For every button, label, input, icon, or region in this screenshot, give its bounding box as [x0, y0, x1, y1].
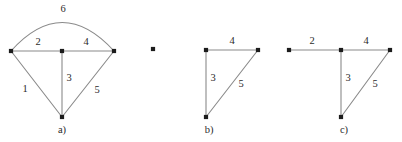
vertex-c-left: [287, 48, 291, 52]
edge-b-5-weight-label: 5: [238, 78, 243, 89]
edge-a-1: [11, 51, 62, 117]
graph-panel-c: 2345c): [287, 35, 392, 136]
vertex-b-topleft: [204, 48, 208, 52]
edge-a-2-weight-label: 2: [35, 36, 40, 47]
vertex-b-bottom: [204, 115, 208, 119]
vertex-c-middle: [339, 48, 343, 52]
edge-a-6-weight-label: 6: [60, 3, 65, 14]
panel-caption-c: c): [340, 124, 349, 136]
graph-panel-b: 345b): [151, 35, 260, 136]
vertex-a-bottom: [60, 115, 64, 119]
edge-c-3-weight-label: 3: [345, 72, 350, 83]
vertex-b-isolated: [151, 47, 155, 51]
vertex-a-right: [112, 49, 116, 53]
edge-a-3-weight-label: 3: [66, 72, 71, 83]
edge-c-4-weight-label: 4: [363, 35, 369, 46]
panel-caption-a: a): [58, 124, 67, 136]
graph-panel-a: 123456a): [9, 3, 116, 136]
edge-b-4-weight-label: 4: [229, 35, 235, 46]
vertex-a-left: [9, 49, 13, 53]
vertex-a-middle: [60, 49, 64, 53]
edge-c-2-weight-label: 2: [309, 35, 314, 46]
edge-b-5: [206, 50, 258, 117]
edge-c-5-weight-label: 5: [372, 78, 377, 89]
edge-a-5-weight-label: 5: [94, 84, 99, 95]
edge-c-5: [341, 50, 390, 117]
vertex-c-bottom: [339, 115, 343, 119]
graph-figure-container: 123456a)345b)2345c): [0, 0, 402, 142]
panel-caption-b: b): [205, 124, 214, 136]
edge-a-6: [11, 23, 114, 52]
edge-a-5: [62, 51, 114, 117]
vertex-c-right: [388, 48, 392, 52]
vertex-b-topright: [256, 48, 260, 52]
edge-a-1-weight-label: 1: [22, 83, 27, 94]
edge-b-3-weight-label: 3: [210, 72, 215, 83]
graph-figure-canvas: 123456a)345b)2345c): [0, 0, 402, 142]
edge-a-4-weight-label: 4: [83, 36, 89, 47]
